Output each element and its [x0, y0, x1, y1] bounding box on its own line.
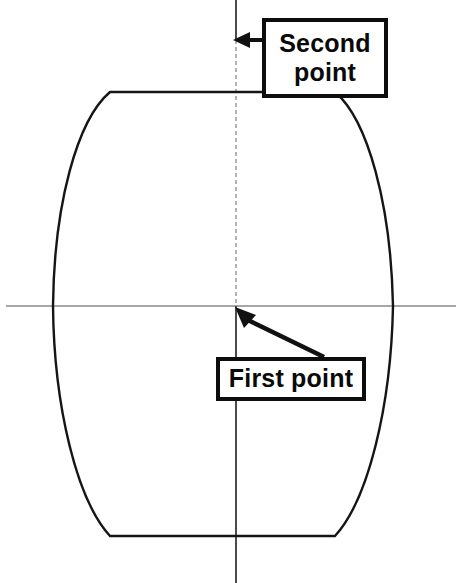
callout-first-point[interactable]: First point	[216, 357, 366, 401]
diagram-vector-layer	[0, 0, 462, 583]
second-point-leader	[233, 32, 264, 48]
first-point-leader	[235, 307, 324, 357]
first-point-leader-line	[248, 320, 324, 357]
barrel-outline	[53, 92, 393, 536]
callout-first-point-label: First point	[229, 364, 353, 394]
callout-second-point-label: Second point	[279, 29, 371, 88]
diagram-canvas: Second point First point	[0, 0, 462, 583]
callout-second-point[interactable]: Second point	[262, 18, 388, 98]
